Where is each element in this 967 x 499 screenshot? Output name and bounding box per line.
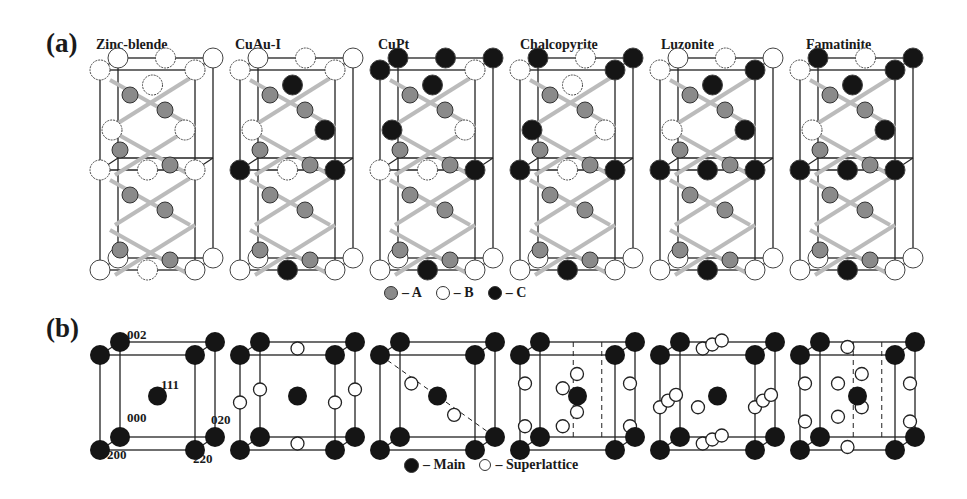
reciprocal-cell-4 bbox=[650, 332, 785, 460]
legend-label-superlattice: – Superlattice bbox=[495, 457, 578, 473]
legend-reflections: – Main – Superlattice bbox=[404, 457, 592, 473]
legend-item-superlattice: – Superlattice bbox=[479, 457, 578, 473]
legend-item-main: – Main bbox=[404, 457, 465, 473]
reciprocal-cell-3 bbox=[510, 332, 645, 460]
reciprocal-lattices-panel-b bbox=[0, 0, 967, 499]
reciprocal-cell-2 bbox=[370, 332, 505, 460]
legend-label-main: – Main bbox=[423, 457, 465, 473]
main-reflection-icon bbox=[404, 458, 419, 473]
superlattice-reflection-icon bbox=[479, 459, 491, 471]
reciprocal-cell-5 bbox=[790, 332, 925, 460]
reciprocal-cell-0 bbox=[90, 332, 225, 460]
reciprocal-cell-1 bbox=[230, 332, 365, 460]
